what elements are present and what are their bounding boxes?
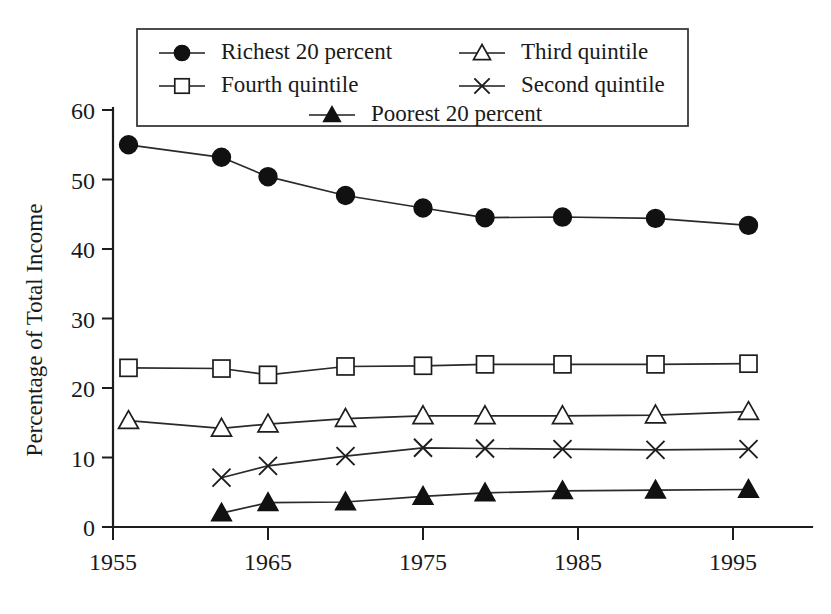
marker-filled-circle [259, 168, 277, 186]
chart-container: Percentage of Total Income 0102030405060… [0, 0, 831, 614]
series-poorest-20-percent [212, 479, 759, 520]
y-tick-label: 0 [83, 515, 95, 541]
marker-open-triangle [413, 406, 433, 424]
marker-open-triangle [119, 411, 139, 429]
chart-legend: Richest 20 percentThird quintileFourth q… [137, 29, 688, 126]
y-tick-label: 60 [71, 98, 95, 124]
marker-open-square [477, 356, 494, 373]
legend-item-label: Fourth quintile [221, 72, 358, 97]
y-axis-title-label: Percentage of Total Income [22, 204, 47, 457]
marker-open-square [120, 359, 137, 376]
marker-filled-circle [414, 199, 432, 217]
y-axis-ticks: 0102030405060 [71, 98, 113, 541]
series-layer [119, 136, 759, 521]
x-tick-label: 1965 [244, 549, 292, 575]
legend-item-label: Second quintile [521, 72, 665, 97]
marker-open-square [415, 357, 432, 374]
y-axis-title: Percentage of Total Income [22, 204, 47, 457]
marker-filled-circle [120, 136, 138, 154]
marker-filled-triangle [739, 479, 759, 497]
legend-item-label: Poorest 20 percent [371, 101, 543, 126]
marker-filled-circle [554, 208, 572, 226]
marker-filled-circle [337, 186, 355, 204]
series-path [222, 448, 749, 478]
series-fourth-quintile [120, 355, 757, 383]
x-tick-label: 1975 [399, 549, 447, 575]
legend-item-label: Third quintile [521, 39, 648, 64]
marker-open-triangle [739, 402, 759, 420]
axes [113, 108, 812, 527]
x-tick-label: 1985 [554, 549, 602, 575]
x-tick-label: 1995 [709, 549, 757, 575]
y-tick-label: 30 [71, 307, 95, 333]
marker-open-triangle [336, 409, 356, 427]
marker-open-square [337, 358, 354, 375]
marker-filled-circle [740, 216, 758, 234]
marker-filled-triangle [475, 483, 495, 501]
x-tick-label: 1955 [89, 549, 137, 575]
marker-cross [213, 469, 231, 487]
series-richest-20-percent [120, 136, 758, 235]
marker-open-square [740, 355, 757, 372]
marker-open-square [260, 366, 277, 383]
y-tick-label: 10 [71, 446, 95, 472]
marker-filled-circle [174, 45, 189, 60]
line-chart: Percentage of Total Income 0102030405060… [0, 0, 831, 614]
marker-filled-circle [647, 209, 665, 227]
series-third-quintile [119, 402, 759, 436]
marker-open-triangle [553, 406, 573, 424]
marker-open-square [647, 356, 664, 373]
marker-filled-triangle [646, 480, 666, 498]
marker-open-square [554, 356, 571, 373]
marker-filled-triangle [553, 481, 573, 499]
x-axis-ticks: 19551965197519851995 [89, 527, 757, 575]
y-tick-label: 40 [71, 237, 95, 263]
y-tick-label: 50 [71, 168, 95, 194]
marker-filled-triangle [258, 493, 278, 511]
marker-open-triangle [475, 406, 495, 424]
marker-filled-circle [213, 148, 231, 166]
marker-open-square [175, 79, 189, 93]
marker-filled-circle [476, 209, 494, 227]
series-second-quintile [213, 439, 758, 487]
y-tick-label: 20 [71, 376, 95, 402]
marker-open-square [213, 360, 230, 377]
legend-item-label: Richest 20 percent [221, 39, 393, 64]
